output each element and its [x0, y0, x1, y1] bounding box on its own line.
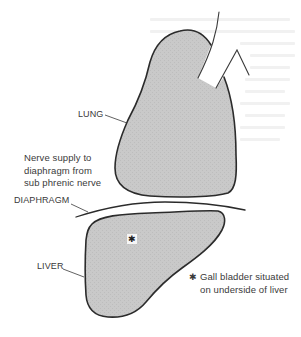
gall-bladder-note-marker: ✱ — [189, 271, 197, 284]
gall-bladder-note-line-1: Gall bladder situated — [200, 271, 289, 284]
diaphragm-label: DIAPHRAGM — [14, 194, 69, 207]
gall-bladder-note-line-2: on underside of liver — [200, 284, 289, 297]
diagram-canvas: ✱ LUNG Nerve supply to diaphragm from su… — [0, 0, 301, 337]
nerve-supply-note: Nerve supply to diaphragm from sub phren… — [24, 152, 101, 190]
lung-leader-line — [105, 115, 127, 123]
lung-label: LUNG — [78, 108, 103, 121]
liver-shape — [85, 211, 224, 317]
diaphragm-leader-line — [71, 204, 88, 212]
nerve-note-line-2: diaphragm from — [24, 165, 101, 178]
gall-bladder-note: Gall bladder situated on underside of li… — [200, 271, 289, 296]
liver-leader-line — [63, 269, 84, 277]
lung-shape — [115, 30, 236, 197]
liver-label: LIVER — [37, 260, 64, 273]
nerve-note-line-3: sub phrenic nerve — [24, 177, 101, 190]
nerve-note-line-1: Nerve supply to — [24, 152, 101, 165]
gall-bladder-marker: ✱ — [127, 233, 137, 246]
